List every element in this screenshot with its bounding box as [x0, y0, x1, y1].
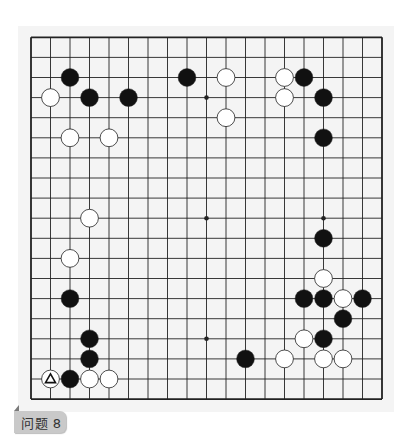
white-stone[interactable] — [217, 109, 235, 127]
white-stone[interactable] — [100, 129, 118, 147]
white-stone-disc — [334, 290, 352, 308]
white-stone-disc — [81, 370, 99, 388]
white-stone[interactable] — [42, 89, 60, 107]
white-stone[interactable] — [81, 370, 99, 388]
black-stone-disc — [315, 330, 333, 348]
black-stone-disc — [178, 69, 196, 87]
white-stone[interactable] — [81, 209, 99, 227]
go-board[interactable] — [0, 0, 407, 447]
white-stone[interactable] — [276, 89, 294, 107]
star-point-icon — [204, 337, 209, 342]
white-stone-disc — [61, 250, 79, 268]
white-stone-disc — [217, 109, 235, 127]
black-stone-disc — [237, 350, 255, 368]
white-stone-disc — [334, 350, 352, 368]
white-stone[interactable] — [334, 290, 352, 308]
black-stone-disc — [81, 330, 99, 348]
black-stone[interactable] — [61, 290, 79, 308]
star-point-icon — [204, 216, 209, 221]
black-stone[interactable] — [295, 290, 313, 308]
black-stone-disc — [315, 290, 333, 308]
black-stone[interactable] — [315, 290, 333, 308]
problem-label: 问题 8 — [21, 413, 61, 432]
black-stone[interactable] — [81, 330, 99, 348]
black-stone[interactable] — [61, 69, 79, 87]
black-stone[interactable] — [354, 290, 372, 308]
white-stone-disc — [100, 370, 118, 388]
white-stone-disc — [315, 270, 333, 288]
black-stone-disc — [315, 229, 333, 247]
black-stone-disc — [354, 290, 372, 308]
white-stone-disc — [295, 330, 313, 348]
black-stone-disc — [295, 290, 313, 308]
black-stone[interactable] — [81, 89, 99, 107]
black-stone[interactable] — [315, 229, 333, 247]
white-stone-disc — [276, 69, 294, 87]
white-stone[interactable] — [315, 350, 333, 368]
white-stone-disc — [42, 89, 60, 107]
black-stone-disc — [61, 69, 79, 87]
white-stone-disc — [315, 350, 333, 368]
white-stone-disc — [61, 129, 79, 147]
white-stone[interactable] — [295, 330, 313, 348]
white-stone[interactable] — [315, 270, 333, 288]
black-stone[interactable] — [315, 330, 333, 348]
white-stone[interactable] — [100, 370, 118, 388]
white-stone[interactable] — [61, 250, 79, 268]
white-stone[interactable] — [334, 350, 352, 368]
black-stone-disc — [315, 129, 333, 147]
black-stone[interactable] — [295, 69, 313, 87]
white-stone[interactable] — [42, 370, 60, 388]
black-stone[interactable] — [315, 129, 333, 147]
white-stone-disc — [276, 350, 294, 368]
star-point-icon — [321, 216, 326, 221]
black-stone-disc — [315, 89, 333, 107]
black-stone-disc — [61, 370, 79, 388]
black-stone-disc — [334, 310, 352, 328]
white-stone[interactable] — [276, 350, 294, 368]
black-stone[interactable] — [178, 69, 196, 87]
black-stone[interactable] — [120, 89, 138, 107]
star-point-icon — [204, 95, 209, 100]
white-stone-disc — [81, 209, 99, 227]
black-stone[interactable] — [81, 350, 99, 368]
black-stone[interactable] — [237, 350, 255, 368]
black-stone-disc — [81, 350, 99, 368]
black-stone-disc — [120, 89, 138, 107]
white-stone-disc — [100, 129, 118, 147]
black-stone-disc — [81, 89, 99, 107]
black-stone-disc — [295, 69, 313, 87]
white-stone[interactable] — [61, 129, 79, 147]
white-stone[interactable] — [276, 69, 294, 87]
white-stone-disc — [276, 89, 294, 107]
black-stone-disc — [61, 290, 79, 308]
white-stone-disc — [217, 69, 235, 87]
black-stone[interactable] — [315, 89, 333, 107]
black-stone[interactable] — [334, 310, 352, 328]
white-stone[interactable] — [217, 69, 235, 87]
black-stone[interactable] — [61, 370, 79, 388]
